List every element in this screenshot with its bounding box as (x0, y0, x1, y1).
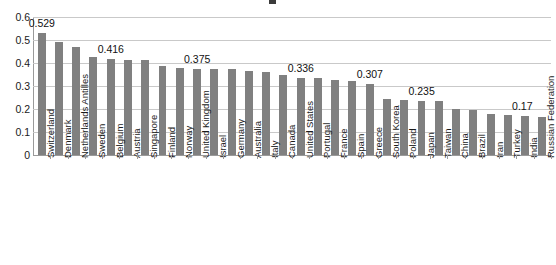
x-axis-tick-label: South Korea (391, 105, 400, 158)
y-axis-tick-label: 0.4 (15, 58, 30, 68)
x-axis-tick-label: United Kingdom (201, 90, 210, 158)
x-axis-tick (465, 155, 466, 159)
x-axis-tick-label: Denmark (63, 119, 72, 158)
bar-value-label: 0.375 (184, 54, 210, 65)
bar-slot[interactable] (487, 17, 495, 155)
x-axis-tick (102, 155, 103, 159)
x-axis-tick-label: Sweden (97, 124, 106, 158)
y-axis-tick-label: 0.3 (15, 81, 30, 91)
bar-value-label: 0.17 (512, 101, 532, 112)
x-axis-tick (516, 155, 517, 159)
x-axis-tick (171, 155, 172, 159)
x-axis-tick (188, 155, 189, 159)
x-axis-tick (137, 155, 138, 159)
x-axis-tick (68, 155, 69, 159)
x-axis-tick (154, 155, 155, 159)
x-axis-tick (482, 155, 483, 159)
x-axis-tick-label: Switzerland (46, 109, 55, 158)
x-axis-tick (85, 155, 86, 159)
y-axis-tick-label: 0 (24, 150, 30, 160)
x-axis-tick-label: Turkey (512, 129, 521, 158)
x-axis-tick (119, 155, 120, 159)
x-axis-tick-label: Portugal (322, 123, 331, 158)
x-axis-tick (223, 155, 224, 159)
x-axis-tick (378, 155, 379, 159)
x-axis-tick-label: Poland (408, 128, 417, 158)
x-axis-tick-labels: SwitzerlandDenmarkNetherlands AntillesSw… (33, 158, 551, 263)
x-axis-tick (50, 155, 51, 159)
x-axis-tick-label: Norway (184, 126, 193, 158)
bar-value-label: 0.235 (409, 86, 435, 97)
bar-slot[interactable] (262, 17, 270, 155)
x-axis-tick-label: Netherlands Antilles (80, 74, 89, 158)
x-axis-tick (413, 155, 414, 159)
x-axis-tick-label: Taiwan (443, 128, 452, 158)
y-axis-tick-labels: 00.10.20.30.40.50.6 (0, 9, 30, 163)
x-axis-tick-label: Germany (236, 119, 245, 158)
x-axis-tick (327, 155, 328, 159)
y-axis-tick-label: 0.1 (15, 127, 30, 137)
x-axis-tick-label: Belgium (115, 124, 124, 158)
x-axis-tick (534, 155, 535, 159)
x-axis-tick (430, 155, 431, 159)
bar-value-label: 0.529 (29, 18, 55, 29)
x-axis-tick (257, 155, 258, 159)
x-axis-tick (344, 155, 345, 159)
x-axis-tick (551, 155, 552, 159)
x-axis-tick (206, 155, 207, 159)
x-axis-tick-label: Russian Federation (546, 76, 555, 158)
x-axis-tick (275, 155, 276, 159)
x-axis-tick-label: Austria (132, 128, 141, 158)
x-axis-tick (396, 155, 397, 159)
bar-slot[interactable] (521, 17, 529, 155)
bar-value-label: 0.336 (288, 63, 314, 74)
x-axis-tick (447, 155, 448, 159)
chart-title-fragment (269, 0, 276, 4)
x-axis-tick-label: United States (305, 101, 314, 158)
x-axis-tick-label: France (339, 128, 348, 158)
x-axis-tick (240, 155, 241, 159)
bar-value-label: 0.307 (357, 69, 383, 80)
y-axis-tick-label: 0.2 (15, 104, 30, 114)
x-axis-tick-label: Canada (287, 125, 296, 158)
bar-value-label: 0.416 (98, 44, 124, 55)
x-axis-tick-label: Australia (253, 121, 262, 158)
x-axis-tick (309, 155, 310, 159)
x-axis-tick (499, 155, 500, 159)
x-axis-tick (292, 155, 293, 159)
x-axis-tick (361, 155, 362, 159)
y-axis-tick-label: 0.5 (15, 35, 30, 45)
x-axis-tick-label: Finland (167, 127, 176, 158)
x-axis-tick-label: Greece (374, 127, 383, 158)
x-axis-tick-label: Singapore (149, 115, 158, 158)
